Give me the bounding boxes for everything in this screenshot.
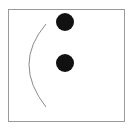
top-dot <box>56 13 74 31</box>
middle-dot <box>56 54 74 72</box>
figure-canvas <box>0 0 132 131</box>
left-arc <box>29 24 46 107</box>
